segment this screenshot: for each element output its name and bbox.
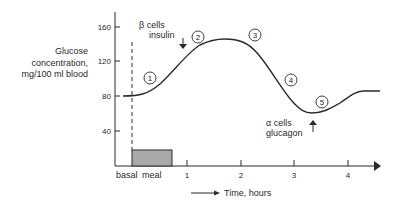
svg-text:2: 2 [196, 33, 201, 42]
x-label-meal: meal [142, 170, 162, 180]
glucagon-arrow-up-icon [309, 120, 317, 125]
alpha-cells-label: α cells [266, 118, 292, 128]
svg-text:1: 1 [148, 74, 153, 83]
svg-text:5: 5 [320, 98, 325, 107]
insulin-arrow-down-icon [179, 44, 187, 49]
x-axis-arrowhead-icon [374, 161, 381, 171]
glucose-diagram: Glucose concentration, mg/100 ml blood 1… [0, 0, 400, 207]
circled-number-3: 3 [249, 29, 261, 41]
y-axis-title-line1: Glucose [55, 46, 88, 56]
x-tick-label-1: 1 [185, 171, 190, 180]
y-tick-label-120: 120 [98, 57, 112, 66]
x-label-basal: basal [116, 170, 138, 180]
time-arrow-icon [214, 191, 220, 196]
y-tick-label-160: 160 [98, 23, 112, 32]
x-axis-title: Time, hours [224, 188, 272, 198]
x-tick-label-2: 2 [239, 171, 244, 180]
y-tick-label-40: 40 [102, 127, 111, 136]
glucose-curve [123, 39, 380, 113]
circled-number-1: 1 [144, 72, 156, 84]
svg-text:3: 3 [253, 31, 258, 40]
x-tick-label-4: 4 [346, 171, 351, 180]
meal-bar [132, 150, 172, 166]
glucagon-label: glucagon [266, 128, 303, 138]
y-tick-label-80: 80 [102, 92, 111, 101]
circled-number-5: 5 [316, 96, 328, 108]
x-tick-label-3: 3 [292, 171, 297, 180]
svg-text:4: 4 [289, 76, 294, 85]
circled-number-2: 2 [192, 31, 204, 43]
y-axis-title-line3: mg/100 ml blood [21, 69, 88, 79]
circled-number-4: 4 [285, 74, 297, 86]
y-axis-title-line2: concentration, [31, 58, 88, 68]
insulin-label: insulin [149, 30, 175, 40]
beta-cells-label: β cells [139, 20, 165, 30]
